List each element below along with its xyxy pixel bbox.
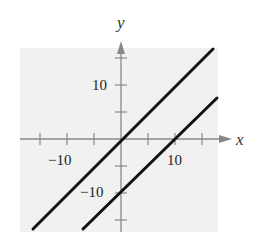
y-tick-label-10: 10: [92, 77, 107, 93]
x-axis-label: x: [235, 130, 244, 149]
x-tick-label-10: 10: [167, 152, 182, 168]
x-axis-arrow-icon: [219, 135, 232, 143]
y-axis-arrow-icon: [117, 41, 125, 54]
x-tick-label-neg10: −10: [48, 152, 71, 168]
y-axis-label: y: [115, 13, 125, 32]
y-tick-label-neg10: −10: [80, 184, 103, 200]
chart: y x −10 10 10 −10: [0, 0, 254, 234]
